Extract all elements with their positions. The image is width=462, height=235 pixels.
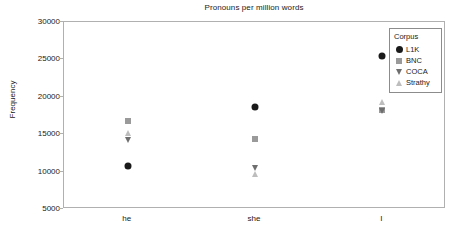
data-point bbox=[252, 136, 258, 142]
y-tick-label: 15000 bbox=[18, 129, 60, 138]
chart-figure: Pronouns per million words Frequency 500… bbox=[0, 0, 462, 235]
square-icon bbox=[394, 58, 404, 64]
data-point bbox=[252, 103, 259, 110]
data-point bbox=[125, 118, 131, 124]
x-tick-label: he bbox=[122, 214, 131, 223]
legend-entry[interactable]: BNC bbox=[394, 55, 437, 66]
y-tick-label: 10000 bbox=[18, 166, 60, 175]
legend: Corpus L1KBNCCOCAStrathy bbox=[389, 28, 442, 93]
x-tick-label: I bbox=[380, 214, 382, 223]
data-point bbox=[379, 108, 385, 114]
y-tick-label: 30000 bbox=[18, 17, 60, 26]
legend-entries: L1KBNCCOCAStrathy bbox=[394, 44, 437, 88]
y-tick-mark bbox=[59, 208, 63, 209]
triangle-down-icon bbox=[394, 69, 404, 75]
legend-entry[interactable]: L1K bbox=[394, 44, 437, 55]
y-tick-label: 25000 bbox=[18, 54, 60, 63]
triangle-up-icon bbox=[394, 80, 404, 86]
legend-title: Corpus bbox=[394, 32, 437, 41]
data-point bbox=[379, 53, 386, 60]
plot-area bbox=[63, 21, 445, 208]
data-point bbox=[124, 163, 131, 170]
legend-entry-label: Strathy bbox=[406, 78, 430, 87]
legend-entry-label: BNC bbox=[406, 56, 422, 65]
x-tick-label: she bbox=[248, 214, 261, 223]
legend-entry-label: COCA bbox=[406, 67, 428, 76]
data-point bbox=[125, 130, 131, 136]
circle-icon bbox=[394, 46, 404, 53]
data-point bbox=[379, 99, 385, 105]
y-tick-label: 5000 bbox=[18, 204, 60, 213]
y-tick-label: 20000 bbox=[18, 91, 60, 100]
legend-entry[interactable]: COCA bbox=[394, 66, 437, 77]
data-point bbox=[252, 171, 258, 177]
legend-entry-label: L1K bbox=[406, 45, 419, 54]
legend-entry[interactable]: Strathy bbox=[394, 77, 437, 88]
data-point bbox=[125, 137, 131, 143]
